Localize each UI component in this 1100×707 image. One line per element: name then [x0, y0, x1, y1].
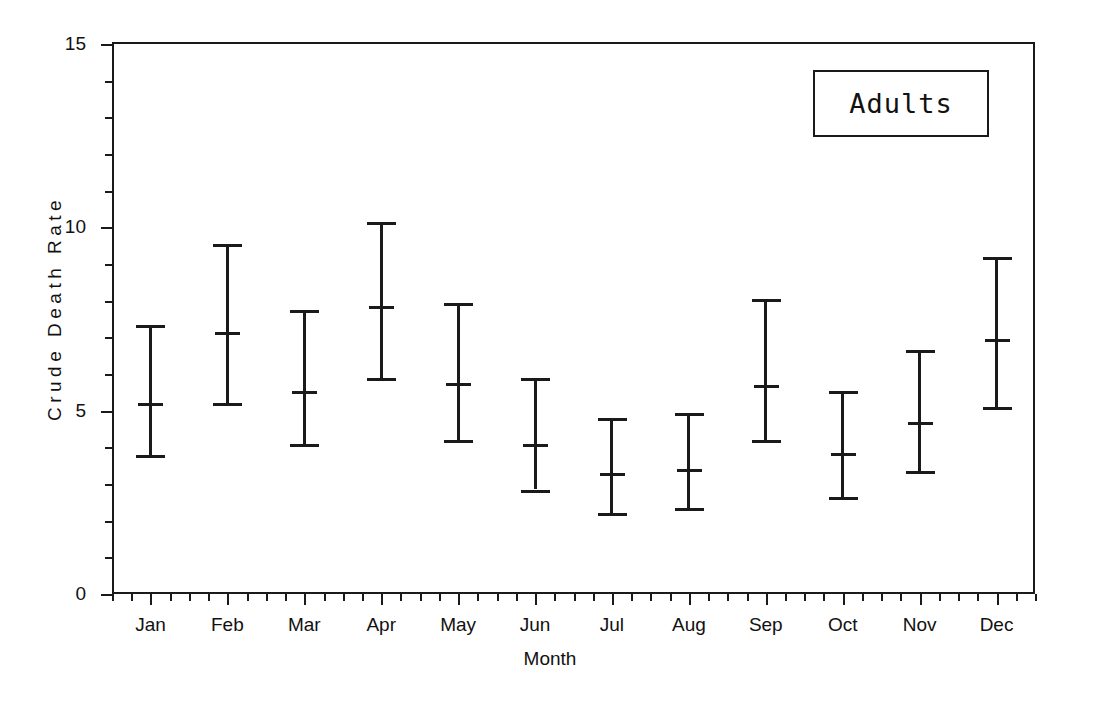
x-axis-minor-tick — [554, 594, 556, 601]
y-axis-minor-tick — [105, 557, 112, 559]
x-axis-minor-tick — [131, 594, 133, 601]
y-axis-minor-tick — [105, 81, 112, 83]
x-axis-tick-label: Nov — [875, 614, 965, 636]
x-axis-major-tick — [843, 594, 845, 605]
x-axis-major-tick — [766, 594, 768, 605]
x-axis-minor-tick — [574, 594, 576, 601]
y-axis-minor-tick — [105, 117, 112, 119]
x-axis-minor-tick — [324, 594, 326, 601]
x-axis-minor-tick — [977, 594, 979, 601]
x-axis-minor-tick — [208, 594, 210, 601]
y-axis-minor-tick — [105, 191, 112, 193]
x-axis-minor-tick — [1016, 594, 1018, 601]
x-axis-tick-label: Jan — [105, 614, 195, 636]
y-axis-minor-tick — [105, 337, 112, 339]
x-axis-minor-tick — [112, 594, 114, 601]
x-axis-minor-tick — [708, 594, 710, 601]
x-axis-major-tick — [381, 594, 383, 605]
x-axis-tick-label: Apr — [336, 614, 426, 636]
y-axis-minor-tick — [105, 521, 112, 523]
y-axis-major-tick — [101, 44, 112, 46]
x-axis-minor-tick — [823, 594, 825, 601]
x-axis-major-tick — [150, 594, 152, 605]
y-axis-minor-tick — [105, 484, 112, 486]
y-axis-minor-tick — [105, 447, 112, 449]
x-axis-major-tick — [997, 594, 999, 605]
x-axis-minor-tick — [804, 594, 806, 601]
x-axis-tick-label: Feb — [182, 614, 272, 636]
x-axis-minor-tick — [862, 594, 864, 601]
y-axis-major-tick — [101, 227, 112, 229]
x-axis-major-tick — [612, 594, 614, 605]
x-axis-minor-tick — [670, 594, 672, 601]
x-axis-minor-tick — [266, 594, 268, 601]
x-axis-minor-tick — [900, 594, 902, 601]
x-axis-major-tick — [458, 594, 460, 605]
y-axis-minor-tick — [105, 374, 112, 376]
x-axis-minor-tick — [516, 594, 518, 601]
x-axis-tick-label: Aug — [644, 614, 734, 636]
x-axis-minor-tick — [189, 594, 191, 601]
x-axis-minor-tick — [939, 594, 941, 601]
y-axis-minor-tick — [105, 264, 112, 266]
y-axis-major-tick — [101, 411, 112, 413]
x-axis-tick-label: Dec — [952, 614, 1042, 636]
x-axis-minor-tick — [747, 594, 749, 601]
x-axis-minor-tick — [593, 594, 595, 601]
chart-figure: 051015 JanFebMarAprMayJunJulAugSepOctNov… — [0, 0, 1100, 707]
x-axis-minor-tick — [727, 594, 729, 601]
x-axis-minor-tick — [400, 594, 402, 601]
x-axis-major-tick — [689, 594, 691, 605]
x-axis-minor-tick — [477, 594, 479, 601]
x-axis-minor-tick — [650, 594, 652, 601]
x-axis-minor-tick — [362, 594, 364, 601]
x-axis-major-tick — [535, 594, 537, 605]
x-axis-minor-tick — [631, 594, 633, 601]
y-axis-title: Crude Death Rate — [44, 201, 66, 421]
x-axis-minor-tick — [285, 594, 287, 601]
x-axis-minor-tick — [439, 594, 441, 601]
x-axis-major-tick — [920, 594, 922, 605]
x-axis-minor-tick — [785, 594, 787, 601]
y-axis-minor-tick — [105, 154, 112, 156]
x-axis-minor-tick — [343, 594, 345, 601]
x-axis-tick-label: Oct — [798, 614, 888, 636]
x-axis-tick-label: May — [413, 614, 503, 636]
x-axis-minor-tick — [958, 594, 960, 601]
x-axis-minor-tick — [497, 594, 499, 601]
y-axis-tick-label: 15 — [42, 33, 86, 55]
y-axis-minor-tick — [105, 301, 112, 303]
x-axis-minor-tick — [881, 594, 883, 601]
y-axis-tick-label: 0 — [42, 583, 86, 605]
x-axis-major-tick — [304, 594, 306, 605]
x-axis-minor-tick — [170, 594, 172, 601]
legend-box: Adults — [813, 70, 989, 137]
x-axis-tick-label: Sep — [721, 614, 811, 636]
x-axis-major-tick — [227, 594, 229, 605]
x-axis-tick-label: Jul — [567, 614, 657, 636]
x-axis-tick-label: Mar — [259, 614, 349, 636]
x-axis-minor-tick — [420, 594, 422, 601]
x-axis-minor-tick — [247, 594, 249, 601]
x-axis-minor-tick — [1035, 594, 1037, 601]
x-axis-tick-label: Jun — [490, 614, 580, 636]
x-axis-title: Month — [0, 648, 1100, 670]
legend-label: Adults — [849, 88, 953, 119]
y-axis-major-tick — [101, 594, 112, 596]
